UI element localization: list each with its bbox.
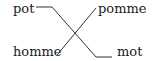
connector-pot-mot [36,7,112,57]
connection-lines [0,0,152,61]
connector-homme-pomme [57,8,96,55]
